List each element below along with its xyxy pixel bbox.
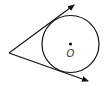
center-point — [69, 42, 72, 45]
tangent-diagram: O — [0, 0, 104, 88]
center-label: O — [67, 48, 75, 59]
lower-tangent-ray — [9, 53, 88, 81]
